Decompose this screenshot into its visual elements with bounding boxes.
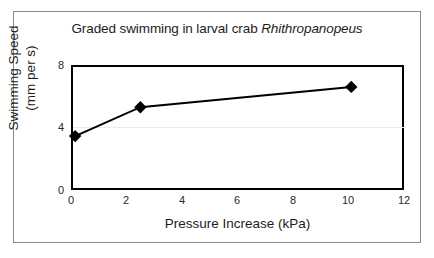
x-tick-label-8: 8 <box>278 194 308 206</box>
figure: Graded swimming in larval crab Rhithropa… <box>0 0 434 258</box>
chart-title: Graded swimming in larval crab Rhithropa… <box>13 21 421 36</box>
x-tick-label-4: 4 <box>167 194 197 206</box>
x-tick-label-12: 12 <box>389 194 419 206</box>
gridline-y-4 <box>73 127 406 128</box>
y-axis-title-line1: Swimming Speed <box>5 8 22 148</box>
x-tick-label-0: 0 <box>56 194 86 206</box>
y-tick-label-8: 8 <box>34 59 64 71</box>
chart-title-species: Rhithropanopeus <box>261 21 362 36</box>
chart-title-text: Graded swimming in larval crab <box>71 21 261 36</box>
x-tick-label-10: 10 <box>333 194 363 206</box>
x-axis-title: Pressure Increase (kPa) <box>71 216 404 231</box>
y-tick-label-4: 4 <box>34 121 64 133</box>
x-tick-label-2: 2 <box>111 194 141 206</box>
x-tick-label-6: 6 <box>222 194 252 206</box>
plot-area-frame <box>71 65 404 190</box>
